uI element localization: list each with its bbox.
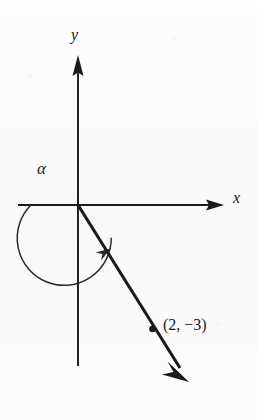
angle-alpha-label: α bbox=[37, 160, 46, 177]
terminal-ray-arrowhead-icon bbox=[162, 362, 189, 383]
terminal-ray-group bbox=[78, 205, 189, 382]
plotted-point-marker bbox=[149, 326, 156, 333]
point-coordinates-label: (2, −3) bbox=[163, 317, 207, 333]
coordinate-plane-drawing bbox=[0, 0, 257, 420]
y-axis-label: y bbox=[71, 27, 78, 43]
terminal-ray-line bbox=[78, 205, 180, 368]
angle-arc-group bbox=[17, 205, 111, 285]
angle-arc bbox=[17, 205, 111, 285]
math-figure: y x α (2, −3) bbox=[0, 0, 257, 420]
x-axis-label: x bbox=[233, 190, 240, 206]
